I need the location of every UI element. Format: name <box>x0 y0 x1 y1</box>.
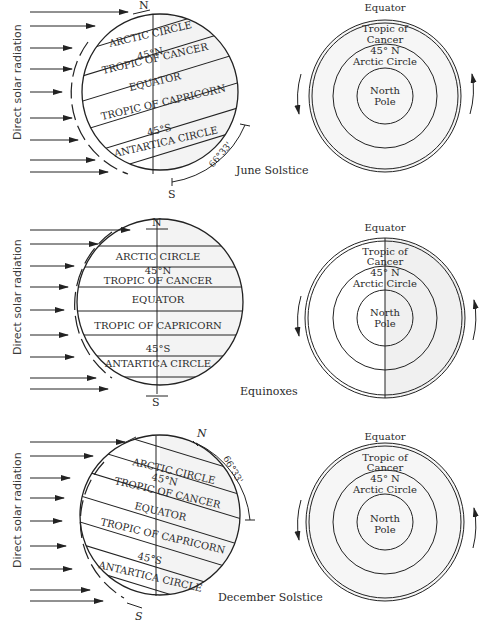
polar-arctic-label: Arctic Circle <box>352 484 417 495</box>
polar-45n-label: 45° N <box>370 45 400 56</box>
polar-45n-label: 45° N <box>370 267 400 278</box>
north-pole-label: N <box>152 216 162 229</box>
polar-tropic-label-2: Cancer <box>367 462 404 473</box>
polar-pole-label-1: North <box>370 513 401 524</box>
panel-june-solstice: Direct solar radiation <box>11 0 473 201</box>
polar-pole-label-1: North <box>370 307 401 318</box>
tropic-of-cancer-label: TROPIC OF CANCER <box>104 275 213 286</box>
south-pole-label: S <box>152 396 160 409</box>
polar-view: Equator Tropic of Cancer 45° N Arctic Ci… <box>298 2 474 172</box>
equator-label: EQUATOR <box>132 294 185 305</box>
south-pole-label: S <box>168 188 176 201</box>
polar-equator-label: Equator <box>365 431 406 442</box>
polar-tropic-label-1: Tropic of <box>362 23 409 34</box>
antarctic-circle-label: ANTARTICA CIRCLE <box>104 358 211 369</box>
polar-tropic-label-2: Cancer <box>367 256 404 267</box>
polar-arctic-label: Arctic Circle <box>352 56 417 67</box>
tropic-of-capricorn-label: TROPIC OF CAPRICORN <box>94 320 222 331</box>
polar-pole-label-2: Pole <box>374 524 396 535</box>
south-pole-label: S <box>135 610 143 623</box>
panel-equinoxes: Direct solar radiation <box>11 215 476 409</box>
polar-pole-label-1: North <box>370 85 401 96</box>
north-pole-label: N <box>196 427 207 440</box>
panel-december-solstice: Direct solar radiation <box>11 424 476 623</box>
s45-label: 45°S <box>137 550 164 566</box>
seasons-diagram: Direct solar radiation <box>0 0 481 624</box>
polar-view: Equator Tropic of Cancer 45° N Arctic Ci… <box>298 222 476 398</box>
polar-equator-label: Equator <box>365 222 406 233</box>
polar-view: Equator Tropic of Cancer 45° N Arctic Ci… <box>298 431 476 601</box>
s45-label: 45°S <box>146 343 171 354</box>
polar-pole-label-2: Pole <box>374 318 396 329</box>
polar-tropic-label-2: Cancer <box>367 34 404 45</box>
december-solstice-caption: December Solstice <box>218 591 323 604</box>
direct-solar-radiation-label: Direct solar radiation <box>11 239 24 355</box>
polar-pole-label-2: Pole <box>374 96 396 107</box>
direct-solar-radiation-label: Direct solar radiation <box>11 452 24 568</box>
polar-arctic-label: Arctic Circle <box>352 278 417 289</box>
north-pole-label: N <box>139 0 149 12</box>
earth-globe <box>43 424 275 614</box>
arctic-circle-label: ARCTIC CIRCLE <box>115 251 201 262</box>
june-solstice-caption: June Solstice <box>235 164 309 177</box>
polar-equator-label: Equator <box>365 2 406 13</box>
polar-45n-label: 45° N <box>370 473 400 484</box>
direct-solar-radiation-label: Direct solar radiation <box>11 24 24 140</box>
equinoxes-caption: Equinoxes <box>240 385 298 398</box>
